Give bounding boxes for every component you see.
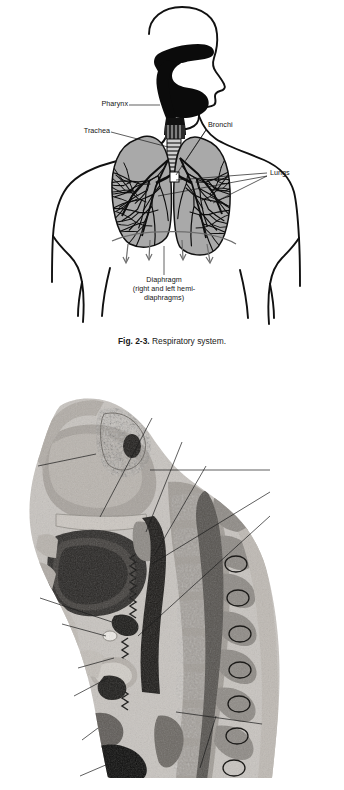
figure1-caption: Fig. 2-3. Respiratory system. [0,336,344,346]
figure1-caption-text: Respiratory system. [152,336,226,346]
figure-respiratory-system: Pharynx Trachea Bronchi Lungs Diaphragm … [0,0,344,330]
figure-sagittal-section: Nasal cavity Hard palate Soft palate Uvu… [0,386,344,790]
label-trachea: Trachea [60,127,110,136]
label-lungs: Lungs [270,169,290,178]
label-diaphragm-line3: diaphragms) [96,294,232,303]
pharynx-airway [154,44,214,135]
label-bronchi: Bronchi [208,121,233,130]
photo-body [0,386,344,790]
label-pharynx: Pharynx [78,100,128,109]
sagittal-section-photo [0,386,344,790]
figure1-caption-number: Fig. 2-3. [118,336,150,346]
larynx [165,125,185,139]
